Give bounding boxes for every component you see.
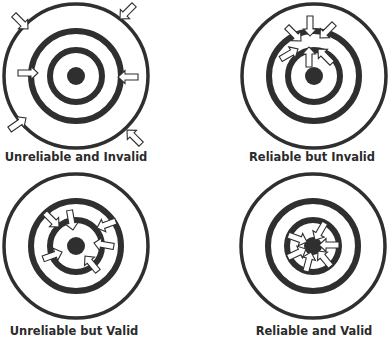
label-reliable-invalid: Reliable but Invalid [249, 150, 375, 164]
target-reliable-valid [241, 174, 385, 318]
target-diagram [0, 0, 389, 344]
target-unreliable-invalid [4, 0, 148, 148]
target-unreliable-valid [4, 174, 148, 318]
target-reliable-invalid [242, 4, 386, 148]
label-unreliable-valid: Unreliable but Valid [10, 324, 139, 338]
arrow-icon [18, 67, 38, 80]
label-reliable-valid: Reliable and Valid [256, 324, 373, 338]
label-unreliable-invalid: Unreliable and Invalid [5, 150, 148, 164]
